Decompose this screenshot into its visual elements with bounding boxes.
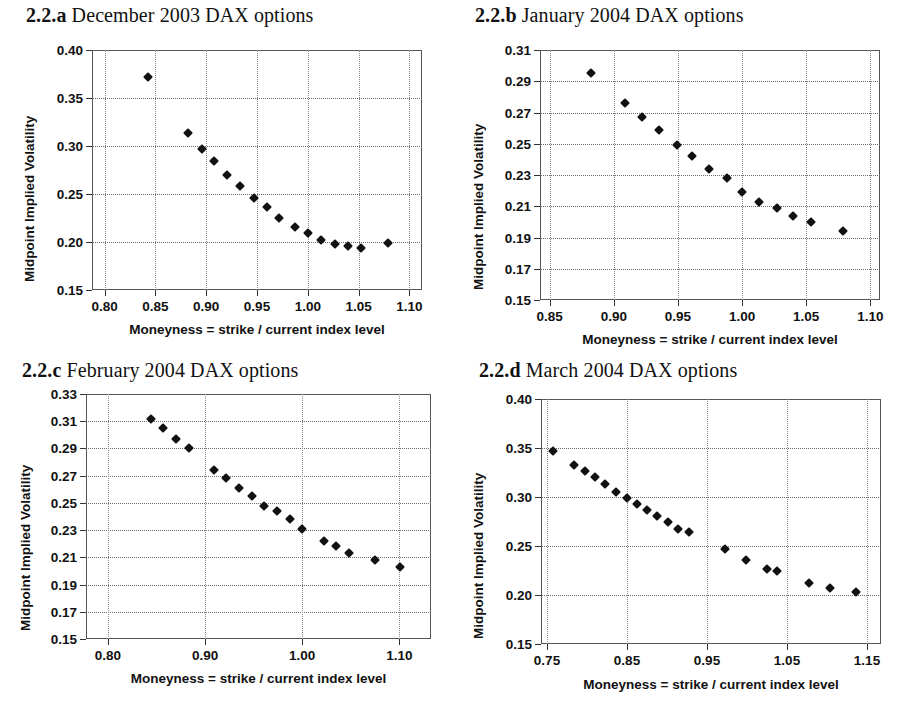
y-gridline <box>541 497 881 498</box>
x-axis-tick-label: 1.15 <box>854 653 880 668</box>
y-axis-tick-label: 0.29 <box>505 74 531 89</box>
y-gridline <box>86 557 431 558</box>
y-axis-tick-label: 0.20 <box>57 235 83 250</box>
y-axis-tick <box>534 81 540 82</box>
x-gridline <box>399 394 400 639</box>
y-axis-tick-label: 0.27 <box>51 468 77 483</box>
y-axis-tick-label: 0.20 <box>506 588 532 603</box>
y-axis-tick <box>80 448 86 449</box>
y-axis-tick <box>80 557 86 558</box>
x-gridline <box>108 394 109 639</box>
y-axis-tick-label: 0.25 <box>51 495 77 510</box>
y-axis-tick-label: 0.15 <box>505 293 531 308</box>
y-axis-tick <box>534 50 540 51</box>
panel-b-title-text: January 2004 DAX options <box>522 4 744 26</box>
x-axis-tick <box>547 644 548 650</box>
x-axis-tick-label: 0.80 <box>95 648 121 663</box>
x-axis-tick-label: 0.85 <box>536 309 562 324</box>
y-axis-tick-label: 0.31 <box>505 43 531 58</box>
x-axis-tick <box>308 290 309 296</box>
y-axis-tick <box>535 399 541 400</box>
y-gridline <box>541 546 881 547</box>
x-axis-tick <box>105 290 106 296</box>
panel-d-title: 2.2.d March 2004 DAX options <box>479 359 737 382</box>
x-gridline <box>155 50 156 290</box>
y-axis-tick <box>80 394 86 395</box>
x-axis-tick-label: 0.80 <box>92 299 118 314</box>
x-axis-tick-label: 1.10 <box>396 299 422 314</box>
panel-d-plot-area: 0.150.200.250.300.350.400.750.850.951.05… <box>541 399 881 644</box>
y-axis-tick-label: 0.19 <box>505 230 531 245</box>
x-gridline <box>742 50 743 300</box>
x-axis-tick-label: 0.75 <box>534 653 560 668</box>
x-gridline <box>409 50 410 290</box>
y-gridline <box>86 448 431 449</box>
y-axis-tick-label: 0.33 <box>51 387 77 402</box>
x-gridline <box>707 399 708 644</box>
x-gridline <box>206 50 207 290</box>
panel-a-x-axis-title: Moneyness = strike / current index level <box>92 322 422 337</box>
y-axis-tick <box>534 144 540 145</box>
y-axis-tick-label: 0.35 <box>57 91 83 106</box>
x-axis-tick <box>870 300 871 306</box>
x-gridline <box>870 50 871 300</box>
x-axis-tick <box>302 639 303 645</box>
y-axis-tick-label: 0.30 <box>57 139 83 154</box>
y-axis-tick-label: 0.40 <box>506 392 532 407</box>
x-gridline <box>806 50 807 300</box>
x-gridline <box>302 394 303 639</box>
panel-c-number: 2.2.c <box>22 359 61 381</box>
y-gridline <box>540 81 880 82</box>
panel-2-2-a: 2.2.a December 2003 DAX options 0.150.20… <box>0 0 451 359</box>
panel-c-y-axis-title: Midpoint Implied Volatility <box>18 465 33 631</box>
x-axis-tick-label: 1.00 <box>729 309 755 324</box>
x-gridline <box>308 50 309 290</box>
y-axis-tick <box>86 146 92 147</box>
x-gridline <box>359 50 360 290</box>
y-axis-tick-label: 0.21 <box>505 199 531 214</box>
x-axis-tick <box>707 644 708 650</box>
y-gridline <box>540 113 880 114</box>
y-axis-tick <box>86 242 92 243</box>
y-axis-tick <box>80 639 86 640</box>
panel-a-title: 2.2.a December 2003 DAX options <box>26 4 314 27</box>
x-axis-tick-label: 1.05 <box>774 653 800 668</box>
y-gridline <box>541 595 881 596</box>
x-axis-tick <box>257 290 258 296</box>
x-axis-tick-label: 0.95 <box>244 299 270 314</box>
x-gridline <box>614 50 615 300</box>
y-axis-tick-label: 0.21 <box>51 550 77 565</box>
panel-2-2-d: 2.2.d March 2004 DAX options 0.150.200.2… <box>451 359 902 718</box>
y-axis-tick <box>86 98 92 99</box>
y-gridline <box>540 269 880 270</box>
y-axis-tick-label: 0.19 <box>51 577 77 592</box>
y-axis-tick <box>80 421 86 422</box>
x-axis-tick-label: 0.85 <box>142 299 168 314</box>
x-gridline <box>205 394 206 639</box>
y-axis-tick-label: 0.29 <box>51 441 77 456</box>
y-axis-tick-label: 0.31 <box>51 414 77 429</box>
y-axis-tick <box>535 595 541 596</box>
x-gridline <box>627 399 628 644</box>
y-axis-tick-label: 0.15 <box>51 632 77 647</box>
y-axis-tick-label: 0.17 <box>51 604 77 619</box>
figure-grid: 2.2.a December 2003 DAX options 0.150.20… <box>0 0 902 718</box>
y-axis-tick-label: 0.25 <box>506 539 532 554</box>
y-axis-tick-label: 0.27 <box>505 105 531 120</box>
x-axis-tick <box>678 300 679 306</box>
panel-c-plot-area: 0.150.170.190.210.230.250.270.290.310.33… <box>86 394 431 639</box>
y-axis-tick <box>86 50 92 51</box>
panel-d-x-axis-title: Moneyness = strike / current index level <box>541 677 881 692</box>
y-axis-tick-label: 0.35 <box>506 441 532 456</box>
x-gridline <box>257 50 258 290</box>
panel-d-title-text: March 2004 DAX options <box>526 359 738 381</box>
x-axis-tick <box>155 290 156 296</box>
y-axis-tick <box>534 113 540 114</box>
x-axis-tick <box>409 290 410 296</box>
y-gridline <box>540 144 880 145</box>
x-axis-tick-label: 0.90 <box>192 648 218 663</box>
panel-c-frame <box>86 394 431 639</box>
y-axis-tick <box>86 290 92 291</box>
panel-2-2-b: 2.2.b January 2004 DAX options 0.150.170… <box>451 0 902 359</box>
y-axis-tick <box>80 476 86 477</box>
